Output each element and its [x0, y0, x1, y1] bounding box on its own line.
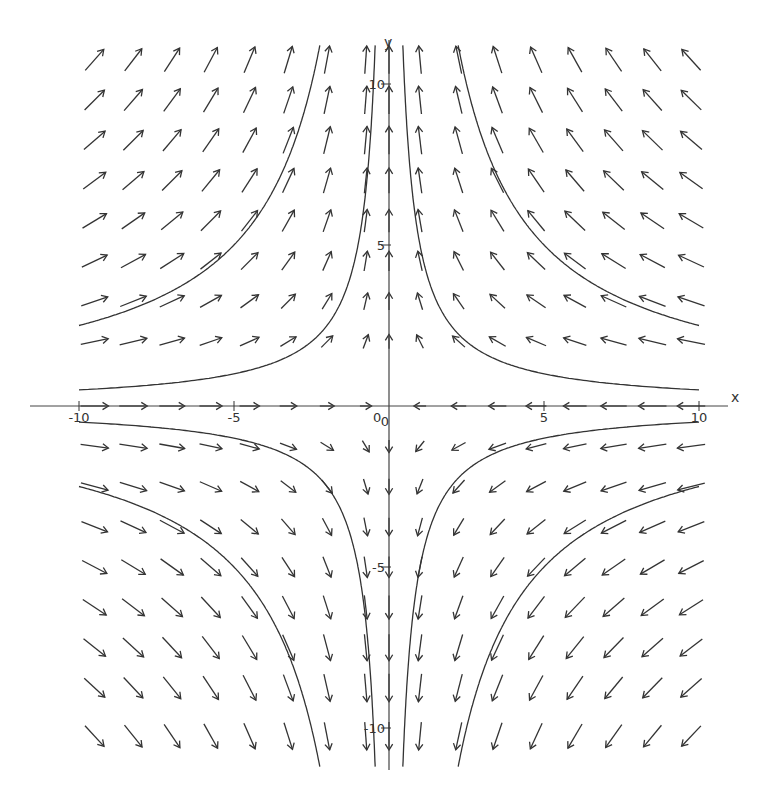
arrow-icon	[567, 676, 583, 699]
y-tick-label: 5	[377, 238, 385, 253]
arrow-icon	[159, 336, 184, 345]
arrow-icon	[284, 723, 294, 750]
arrow-icon	[601, 336, 627, 345]
arrow-icon	[679, 214, 703, 228]
arrow-icon	[453, 210, 463, 232]
arrow-icon	[529, 88, 542, 113]
arrow-icon	[160, 254, 184, 269]
arrow-icon	[160, 520, 184, 533]
arrow-icon	[81, 522, 107, 533]
arrow-icon	[601, 444, 627, 451]
arrow-icon	[416, 479, 423, 494]
arrow-icon	[363, 518, 370, 536]
arrow-icon	[605, 89, 622, 111]
arrow-icon	[200, 520, 221, 534]
arrow-icon	[568, 48, 582, 72]
arrow-icon	[324, 46, 332, 74]
arrow-icon	[281, 294, 295, 308]
arrow-icon	[677, 444, 705, 451]
arrow-icon	[527, 520, 545, 534]
arrow-icon	[605, 677, 623, 699]
arrow-icon	[453, 294, 464, 309]
arrow-icon	[453, 336, 465, 347]
arrow-icon	[84, 678, 105, 697]
arrow-icon	[681, 131, 702, 149]
arrow-icon	[83, 172, 106, 189]
arrow-icon	[453, 557, 463, 577]
arrow-icon	[605, 130, 623, 151]
arrow-icon	[125, 49, 142, 71]
arrow-icon	[453, 722, 461, 749]
arrow-icon	[284, 87, 295, 113]
x-tick-label: 10	[691, 410, 708, 425]
direction-arrows	[81, 46, 706, 750]
arrow-icon	[490, 481, 506, 492]
arrow-icon	[241, 558, 258, 576]
arrow-icon	[564, 295, 586, 307]
arrow-icon	[491, 168, 504, 192]
arrow-icon	[639, 444, 667, 451]
arrow-icon	[161, 559, 184, 575]
arrow-icon	[644, 725, 662, 747]
arrow-icon	[415, 595, 422, 619]
arrow-icon	[123, 638, 144, 657]
arrow-icon	[640, 560, 664, 574]
arrow-icon	[362, 441, 369, 452]
arrow-icon	[84, 639, 106, 656]
arrow-icon	[203, 129, 219, 152]
arrow-icon	[282, 596, 294, 619]
arrow-icon	[242, 596, 258, 618]
arrow-icon	[159, 444, 184, 451]
arrow-icon	[244, 87, 257, 112]
arrow-icon	[601, 295, 626, 307]
arrow-icon	[489, 337, 505, 347]
solution-curve	[403, 422, 699, 766]
arrow-icon	[121, 254, 146, 268]
arrow-icon	[280, 443, 296, 451]
arrow-icon	[453, 252, 463, 271]
arrow-icon	[160, 295, 184, 307]
arrow-icon	[83, 600, 106, 615]
arrow-icon	[283, 168, 295, 192]
arrow-icon	[639, 295, 665, 306]
arrow-icon	[121, 560, 145, 575]
arrow-icon	[363, 46, 370, 74]
arrow-icon	[529, 128, 543, 152]
arrow-icon	[283, 635, 295, 661]
arrow-icon	[243, 128, 257, 153]
arrow-icon	[416, 86, 423, 114]
arrow-icon	[240, 444, 260, 451]
arrow-icon	[679, 254, 704, 267]
arrow-icon	[363, 293, 370, 310]
arrow-icon	[678, 295, 705, 305]
arrow-icon	[240, 481, 259, 492]
arrow-icon	[241, 253, 258, 270]
arrow-icon	[453, 86, 462, 113]
arrow-icon	[324, 127, 333, 154]
arrow-icon	[200, 336, 222, 345]
arrow-icon	[322, 294, 332, 310]
arrow-icon	[530, 47, 542, 73]
arrow-icon	[602, 254, 626, 269]
arrow-icon	[682, 726, 701, 746]
arrow-icon	[85, 90, 105, 110]
arrow-icon	[416, 46, 423, 74]
arrow-icon	[453, 127, 462, 154]
arrow-icon	[565, 211, 585, 230]
arrow-icon	[164, 724, 180, 747]
arrow-icon	[363, 557, 370, 578]
arrow-icon	[240, 336, 259, 345]
y-tick-label: 10	[368, 77, 385, 92]
arrow-icon	[490, 294, 505, 308]
arrow-icon	[283, 675, 294, 701]
arrow-icon	[491, 87, 502, 113]
arrow-icon	[243, 675, 256, 700]
arrow-icon	[84, 131, 105, 149]
arrow-icon	[201, 211, 221, 231]
arrow-icon	[120, 336, 147, 345]
arrow-icon	[363, 251, 370, 271]
y-tick-label: -5	[372, 560, 385, 575]
arrow-icon	[283, 127, 294, 153]
arrow-icon	[163, 677, 180, 699]
arrow-icon	[602, 559, 625, 575]
